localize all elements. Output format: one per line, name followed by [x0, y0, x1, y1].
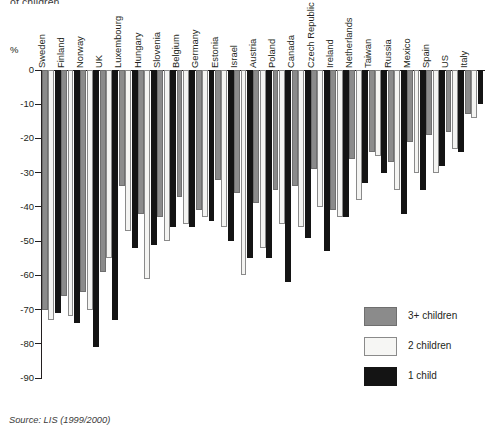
source-note: Source: LIS (1999/2000)	[9, 415, 110, 425]
y-axis-tick-label: 0	[4, 64, 34, 75]
y-axis-tick-label: -10	[4, 98, 34, 109]
y-axis: 0-10-20-30-40-50-60-70-80-90	[0, 0, 34, 435]
bar-group	[100, 70, 119, 378]
bar	[189, 70, 195, 227]
bar	[196, 70, 202, 210]
x-axis-category-label: US	[439, 55, 450, 68]
bar	[356, 70, 362, 200]
legend-swatch	[364, 307, 397, 326]
bar	[106, 70, 112, 258]
legend-item: 1 child	[364, 367, 494, 393]
y-axis-tick-label: -90	[4, 372, 34, 383]
bar	[337, 70, 343, 217]
x-axis-category-label: Mexico	[401, 38, 412, 68]
legend-item: 2 children	[364, 337, 494, 363]
bar-group	[196, 70, 215, 378]
x-axis-category-label: Germany	[189, 29, 200, 68]
bar	[119, 70, 125, 186]
x-axis-category-label: Italy	[458, 51, 469, 68]
legend-label: 1 child	[408, 370, 437, 381]
bar	[362, 70, 368, 183]
x-axis-category-label: Russia	[382, 39, 393, 68]
bar	[170, 70, 176, 227]
bar	[215, 70, 221, 180]
bar-group	[177, 70, 196, 378]
bar	[471, 70, 477, 118]
bar	[273, 70, 279, 190]
bar-group	[119, 70, 138, 378]
bar	[151, 70, 157, 245]
bar	[183, 70, 189, 224]
bar	[260, 70, 266, 248]
bar	[253, 70, 259, 203]
y-axis-tick-label: -50	[4, 235, 34, 246]
bar	[343, 70, 349, 217]
bar-group	[273, 70, 292, 378]
bar	[305, 70, 311, 238]
y-axis-tick-label: -80	[4, 338, 34, 349]
x-axis-category-label: Finland	[55, 37, 66, 68]
x-axis-category-label: Estonia	[209, 37, 220, 68]
bar	[132, 70, 138, 248]
x-axis-category-label: Luxembourg	[112, 16, 123, 68]
x-axis-category-label: Sweden	[36, 34, 47, 68]
bar	[177, 70, 183, 197]
bar	[234, 70, 240, 193]
y-axis-tick-label: -20	[4, 132, 34, 143]
bar	[93, 70, 99, 347]
bar	[285, 70, 291, 282]
bar	[388, 70, 394, 162]
bar	[292, 70, 298, 186]
bar	[381, 70, 387, 173]
bar	[138, 70, 144, 214]
bar-group	[42, 70, 61, 378]
bar	[349, 70, 355, 159]
bar-group	[234, 70, 253, 378]
bar-group	[311, 70, 330, 378]
y-axis-tick-label: -30	[4, 167, 34, 178]
bar	[324, 70, 330, 251]
x-axis-category-label: Norway	[74, 36, 85, 68]
y-axis-tick-label: -70	[4, 304, 34, 315]
bar	[317, 70, 323, 207]
bar	[100, 70, 106, 272]
bar	[452, 70, 458, 149]
bar	[112, 70, 118, 320]
bar	[42, 70, 48, 310]
bar	[221, 70, 227, 227]
legend-label: 2 children	[408, 340, 451, 351]
bar-group	[253, 70, 272, 378]
bar	[61, 70, 67, 296]
bar-group	[292, 70, 311, 378]
bar	[465, 70, 471, 114]
x-axis-category-label: Slovenia	[151, 32, 162, 68]
y-axis-tick-label: -40	[4, 201, 34, 212]
bar	[164, 70, 170, 241]
bar	[87, 70, 93, 310]
bar-group	[157, 70, 176, 378]
bar	[228, 70, 234, 241]
y-axis-tick-label: -60	[4, 269, 34, 280]
bar	[80, 70, 86, 292]
x-axis-category-label: Austria	[247, 39, 258, 68]
bar	[125, 70, 131, 231]
bar	[407, 70, 413, 142]
bar	[401, 70, 407, 214]
legend-label: 3+ children	[408, 310, 457, 321]
bar	[433, 70, 439, 173]
x-axis-category-label: Hungary	[132, 33, 143, 68]
bar-group	[330, 70, 349, 378]
legend-swatch	[364, 367, 397, 386]
bar	[279, 70, 285, 224]
bar	[375, 70, 381, 156]
bar	[247, 70, 253, 258]
bar	[426, 70, 432, 135]
bar-group	[61, 70, 80, 378]
bar	[74, 70, 80, 323]
bar	[157, 70, 163, 217]
bar	[330, 70, 336, 210]
bar	[446, 70, 452, 132]
bar	[48, 70, 54, 320]
x-axis-category-label: Israel	[228, 45, 239, 68]
x-axis-category-label: Czech Republic	[305, 2, 316, 68]
